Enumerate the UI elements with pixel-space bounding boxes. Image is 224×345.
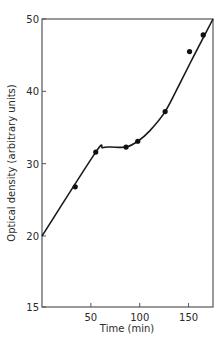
data-point — [73, 184, 78, 189]
data-point — [187, 49, 192, 54]
data-point — [135, 139, 140, 144]
y-tick-label: 15 — [26, 302, 39, 313]
x-tick-label: 100 — [130, 312, 149, 323]
data-point — [201, 32, 206, 37]
series-layer — [42, 19, 213, 236]
x-tick-label: 50 — [84, 312, 97, 323]
y-tick-label: 40 — [26, 86, 39, 97]
x-tick-label: 150 — [179, 312, 198, 323]
plot-frame — [42, 19, 213, 307]
y-tick-label: 50 — [26, 14, 39, 25]
y-tick-label: 20 — [26, 231, 39, 242]
y-axis-ticks: 1520304050 — [26, 14, 46, 313]
y-axis-label: Optical density (arbitrary units) — [6, 84, 17, 242]
x-axis-ticks: 50100150 — [84, 303, 198, 323]
chart: 50100150 1520304050 Time (min) Optical d… — [0, 0, 224, 345]
data-point — [93, 149, 98, 154]
x-axis-label: Time (min) — [99, 323, 154, 334]
data-point — [163, 109, 168, 114]
y-tick-label: 30 — [26, 159, 39, 170]
data-point — [123, 144, 128, 149]
